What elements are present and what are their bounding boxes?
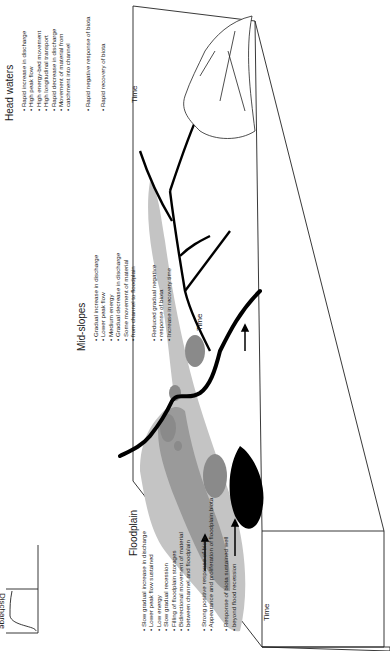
bullet: • Appearance and proliferation of floodp…: [207, 498, 214, 631]
bullet: • between channel and floodplain: [184, 531, 191, 631]
bullet: • Gradual increase in discharge: [92, 253, 99, 341]
mid-slopes-discharge-points: • Gradual increase in discharge • Lower …: [92, 253, 136, 341]
bullet: • Filling of floodplain storages: [170, 531, 177, 631]
floodplain-discharge-points: • Slow gradual increase in discharge • L…: [140, 531, 192, 631]
bullet: • Gradual decrease in discharge: [114, 253, 121, 341]
rotated-diagram-canvas: Floodplain Discharge • Slow gradual incr…: [0, 0, 390, 651]
bullet: • Rapid increase in discharge: [20, 29, 27, 111]
bullet: • Lower peak flow: [99, 253, 106, 341]
bullet: • Bidirectional movement of material: [177, 531, 184, 631]
floodplain-time-label: Time: [262, 604, 271, 621]
bullet: • High peak flow: [27, 29, 34, 111]
bullet: • catchment into channel: [64, 29, 71, 111]
head-waters-biota-points: • Rapid negative response of biota • Rap…: [84, 17, 106, 111]
section-title-floodplain: Floodplain: [128, 510, 139, 556]
bullet: • Response of biota sustained well: [222, 498, 229, 631]
bullet: • High longitudinal transport: [42, 29, 49, 111]
bullet: • Increase in recovery time: [165, 265, 172, 341]
bullet: • from channel to floodplain: [129, 253, 136, 341]
bullet: • response of biota: [157, 265, 164, 341]
bullet: • Slow gradual increase in discharge: [140, 531, 147, 631]
floodplain-biota-points: • Strong positive response of biota • Ap…: [200, 498, 237, 631]
bullet: • Low energy: [155, 531, 162, 631]
bullet: • Lower peak flow sustained: [147, 531, 154, 631]
bullet: • Rapid recovery of biota: [99, 17, 106, 111]
mid-slopes-time-label: Time: [195, 314, 204, 331]
head-waters-time-label: Time: [130, 86, 139, 103]
bullet: • Some movement of material: [122, 253, 129, 341]
head-waters-discharge-points: • Rapid increase in discharge • High pea…: [20, 29, 72, 111]
bullet: • Slow gradual recession: [162, 531, 169, 631]
diagram-stage: Floodplain Discharge • Slow gradual incr…: [0, 0, 390, 651]
bullet: • High energy-bed movement: [35, 29, 42, 111]
bullet: • Rapid negative response of biota: [84, 17, 91, 111]
bullet: • Medium energy: [107, 253, 114, 341]
section-title-head-waters: Head waters: [4, 65, 15, 121]
bullet: [215, 498, 222, 631]
bullet: • Movement of material from: [57, 29, 64, 111]
bullet: • beyond flood recession: [230, 498, 237, 631]
bullet: [91, 17, 98, 111]
bullet: • Reduced gradual negative: [150, 265, 157, 341]
section-title-mid-slopes: Mid-slopes: [76, 303, 87, 351]
mid-slopes-biota-points: • Reduced gradual negative • response of…: [150, 265, 172, 341]
floodplain-discharge-axis-label: Discharge: [0, 593, 7, 629]
bullet: • Rapid decrease in discharge: [50, 29, 57, 111]
bullet: • Strong positive response of biota: [200, 498, 207, 631]
